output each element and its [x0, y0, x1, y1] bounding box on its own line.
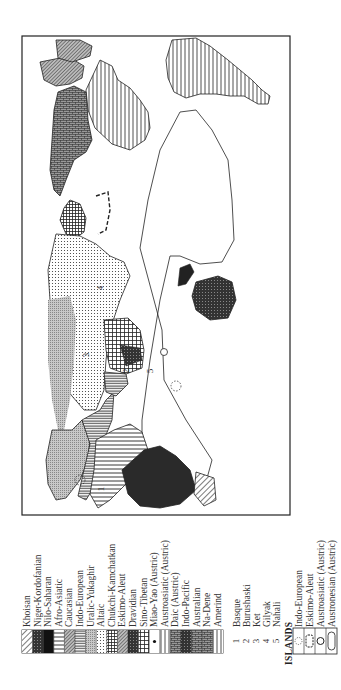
legend-label-uralic-yukaghir: Uralic-Yukaghir: [86, 565, 96, 627]
legend-label-sino-tibetan: Sino-Tibetan: [139, 578, 149, 627]
islands-symbols: [293, 628, 337, 654]
isolate-label-burushaski: Burushaski: [242, 584, 252, 627]
island-label-austronesian: Austronesian (Austric): [327, 540, 337, 627]
island-label-eskimo-aleut: Eskimo-Aleut: [305, 574, 315, 627]
legend-label-dravidian: Dravidian: [128, 589, 138, 627]
legend-label-chukchi-kamchatkan: Chukchi-Kamchatkan: [107, 544, 117, 627]
legend-label-na-dene: Na-Dene: [202, 593, 212, 627]
map-label-ket: 3: [81, 353, 91, 358]
map-label-burushaski: 2: [121, 369, 131, 374]
map-label-nahali: 5: [145, 369, 155, 374]
isolate-label-nahali: Nahali: [272, 602, 282, 627]
legend-swatches: [22, 630, 223, 653]
legend-label-afro-asiatic: Afro-Asiatic: [54, 579, 64, 627]
map-label-basque: 1: [96, 487, 106, 492]
legend-label-niger-kordofanian: Niger-Kordofanian: [33, 554, 43, 627]
isolate-label-gilyak: Gilyak: [262, 601, 272, 627]
isolate-number-5: 5: [271, 639, 281, 644]
legend-label-miao-yao: Miao-Yao (Austric): [149, 552, 159, 627]
legend-label-indo-pacific: Indo-Pacific: [181, 580, 191, 627]
legend-label-khoisan: Khoisan: [22, 595, 32, 627]
island-label-indo-european: Indo-European: [294, 570, 304, 627]
legend-label-caucasian: Caucasian: [64, 588, 74, 627]
isolate-number-3: 3: [251, 639, 261, 644]
legend-label-nilo-saharan: Nilo-Saharan: [43, 576, 53, 627]
legend-label-daic: Daic (Austric): [170, 572, 180, 627]
islands-title: ISLANDS: [284, 622, 294, 665]
isolate-number-2: 2: [241, 639, 251, 644]
legend-label-indo-european: Indo-European: [75, 570, 85, 627]
legend-label-australian: Australian: [192, 587, 202, 627]
legend-label-amerind: Amerind: [213, 593, 223, 627]
isolate-label-basque: Basque: [232, 599, 242, 627]
isolate-label-ket: Ket: [252, 613, 262, 627]
island-austroasiatic-marker: [161, 349, 168, 356]
isolate-number-4: 4: [261, 639, 271, 644]
legend-label-eskimo-aleut: Eskimo-Aleut: [117, 574, 127, 627]
island-label-austroasiatic: Austroasiatic (Austric): [316, 540, 326, 627]
map-label-gilyak: 4: [95, 286, 105, 291]
legend-label-austroasiatic: Austroasiatic (Austric): [160, 540, 170, 627]
isolate-number-1: 1: [231, 639, 241, 644]
legend-label-altaic: Altaic: [96, 604, 106, 627]
